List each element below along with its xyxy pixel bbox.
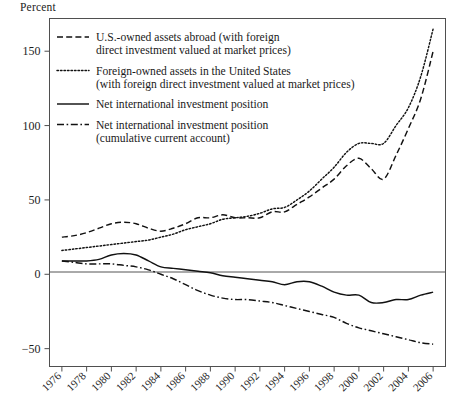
- y-axis-ticks: −50050100150: [22, 44, 50, 355]
- x-tick-label: 1978: [64, 369, 88, 393]
- series-line-2: [62, 253, 433, 303]
- y-tick-label: 100: [23, 119, 41, 133]
- x-tick-label: 1984: [138, 369, 162, 393]
- x-tick-label: 1990: [212, 369, 236, 393]
- line-chart-plot: −50050100150 197619781980198219841986198…: [0, 0, 458, 413]
- legend-label-3: Net international investment position: [96, 119, 268, 132]
- x-tick-label: 1992: [237, 369, 261, 393]
- x-tick-label: 1976: [39, 369, 63, 393]
- x-tick-label: 1980: [89, 369, 113, 393]
- legend-label-1-cont: (with foreign direct investment valued a…: [96, 78, 355, 91]
- legend-label-1: Foreign-owned assets in the United State…: [96, 65, 291, 78]
- y-tick-label: −50: [22, 342, 41, 356]
- legend-label-2: Net international investment position: [96, 98, 268, 111]
- x-axis-ticks: 1976197819801982198419861988199019921994…: [39, 367, 435, 394]
- y-axis-title: Percent: [20, 1, 56, 13]
- x-tick-label: 1986: [163, 369, 187, 393]
- x-tick-label: 1988: [188, 369, 212, 393]
- chart-legend: U.S.-owned assets abroad (with foreigndi…: [57, 31, 355, 145]
- legend-label-0: U.S.-owned assets abroad (with foreign: [96, 31, 280, 44]
- legend-label-3-cont: (cumulative current account): [96, 132, 230, 145]
- x-tick-label: 2004: [386, 369, 410, 393]
- y-tick-label: 0: [35, 267, 41, 281]
- x-tick-label: 1982: [113, 369, 137, 393]
- chart-figure: Percent −50050100150 1976197819801982198…: [0, 0, 458, 413]
- x-tick-label: 2000: [336, 369, 360, 393]
- x-tick-label: 1996: [287, 369, 311, 393]
- y-tick-label: 50: [29, 193, 41, 207]
- x-tick-label: 1998: [311, 369, 335, 393]
- y-tick-label: 150: [23, 44, 41, 58]
- x-tick-label: 2002: [361, 369, 385, 393]
- x-tick-label: 1994: [262, 369, 286, 393]
- x-tick-label: 2006: [410, 369, 434, 393]
- legend-label-0-cont: direct investment valued at market price…: [96, 44, 291, 57]
